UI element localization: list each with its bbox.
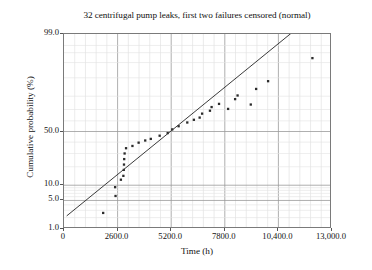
y-tick-label: 5.0 [48,193,59,203]
x-tick-label: 0 [61,231,65,241]
x-axis-title: Time (h) [63,246,331,256]
x-tick-mark [224,228,225,231]
y-tick-label: 99.0 [44,27,59,37]
x-tick-mark [277,228,278,231]
plot-area [63,33,331,228]
y-tick-mark [60,184,63,185]
y-tick-mark [60,199,63,200]
y-tick-mark [60,131,63,132]
y-tick-label: 50.0 [44,125,59,135]
x-tick-mark [63,228,64,231]
x-tick-label: 2600.0 [105,231,129,241]
y-tick-mark [60,33,63,34]
chart-title: 32 centrifugal pump leaks, first two fai… [63,9,331,21]
x-tick-label: 13,000.0 [316,231,346,241]
x-tick-label: 10,400.0 [262,231,292,241]
x-tick-mark [170,228,171,231]
x-tick-mark [331,228,332,231]
x-tick-mark [117,228,118,231]
y-axis-title: Cumulative probability (%) [25,30,35,225]
x-tick-label: 7800.0 [212,231,236,241]
x-tick-label: 5200.0 [158,231,182,241]
probability-plot-figure: 32 centrifugal pump leaks, first two fai… [0,0,372,270]
plot-canvas [64,34,331,228]
y-tick-label: 1.0 [48,222,59,232]
y-tick-label: 10.0 [44,178,59,188]
